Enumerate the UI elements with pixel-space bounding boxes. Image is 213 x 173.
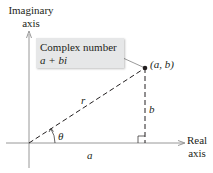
horizontal-leg-label-a: a xyxy=(87,149,93,161)
vertical-leg-label-b: b xyxy=(149,103,155,115)
angle-label-theta: θ xyxy=(58,130,63,142)
complex-plane-diagram: Imaginary axis Complex number a + bi (a,… xyxy=(0,0,213,173)
point-label: (a, b) xyxy=(150,58,174,70)
point-a-b-dot xyxy=(143,66,148,71)
callout-expression: a + bi xyxy=(40,54,67,66)
callout-title: Complex number xyxy=(40,41,117,53)
imaginary-axis-label-line1: Imaginary xyxy=(6,4,56,16)
hypotenuse-label-r: r xyxy=(81,94,85,106)
real-axis-label-line2: axis xyxy=(183,147,211,159)
imaginary-axis-label-line2: axis xyxy=(6,17,56,29)
real-axis-label-line1: Real xyxy=(183,134,211,146)
angle-arrow-icon xyxy=(49,129,54,133)
right-angle-marker xyxy=(138,136,145,143)
complex-number-callout: Complex number a + bi xyxy=(36,38,124,68)
callout-leader-line xyxy=(123,58,145,68)
hypotenuse-r-line xyxy=(29,68,145,143)
